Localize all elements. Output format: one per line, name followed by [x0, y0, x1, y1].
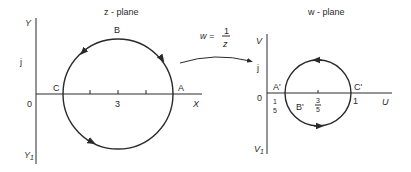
one-label: 1 [353, 96, 358, 106]
mapping-denominator: z [222, 39, 228, 49]
u-axis-label: U [382, 97, 389, 107]
arrow-icon [88, 140, 92, 142]
point-c-label: C [53, 83, 60, 93]
mapping-lhs: w = [200, 31, 214, 41]
z-plane: z - plane Y Y1 j X 0 3 A B C [19, 7, 202, 164]
center-frac-num: 3 [316, 97, 320, 104]
j-label: j [19, 57, 22, 67]
mapping-equation: w = 1 z [180, 26, 250, 63]
x-axis-label: X [192, 99, 200, 109]
point-b-label: B [114, 25, 120, 35]
left-frac-den: 5 [273, 107, 277, 114]
point-b-prime-label: B' [296, 102, 304, 112]
w-plane: w - plane V V1 j U 0 A' B' C' 1 1 5 3 5 [254, 7, 392, 155]
point-c-prime-label: C' [354, 82, 362, 92]
origin-label: 0 [257, 93, 262, 103]
y1-axis-label: Y1 [24, 150, 34, 161]
point-a-label: A [178, 83, 184, 93]
center-tick-label: 3 [115, 99, 120, 109]
j-label: j [256, 63, 259, 73]
w-plane-title: w - plane [307, 7, 345, 17]
point-a-prime-label: A' [273, 82, 281, 92]
v-axis-label: V [256, 36, 263, 46]
conformal-map-diagram: z - plane Y Y1 j X 0 3 A B C w = 1 z w -… [0, 0, 411, 172]
origin-label: 0 [27, 99, 32, 109]
v1-axis-label: V1 [254, 144, 264, 155]
z-plane-title: z - plane [104, 7, 139, 17]
y-axis-label: Y [25, 18, 32, 28]
mapping-numerator: 1 [224, 26, 229, 36]
left-frac-num: 1 [273, 98, 277, 105]
center-frac-den: 5 [316, 106, 320, 113]
mapping-arrow-icon [180, 57, 250, 63]
